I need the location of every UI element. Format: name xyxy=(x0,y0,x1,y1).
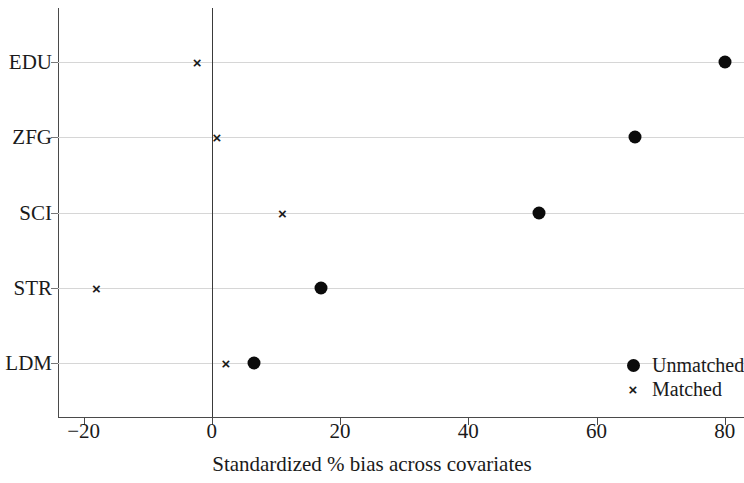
x-axis-tick-label: −20 xyxy=(67,419,100,444)
legend-key xyxy=(620,359,646,372)
data-point-unmatched-edu xyxy=(718,56,731,69)
x-axis-tick-label: 40 xyxy=(458,419,479,444)
x-axis-tick-label: 0 xyxy=(207,419,218,444)
standardized-bias-chart: ××××× EDUZFGSCISTRLDM −20020406080 Stand… xyxy=(0,0,744,483)
y-axis-tick xyxy=(51,62,58,63)
data-point-matched-ldm: × xyxy=(218,356,233,371)
cross-marker-icon: × xyxy=(620,382,646,397)
chart-legend: Unmatched×Matched xyxy=(620,353,744,401)
data-point-unmatched-ldm xyxy=(247,357,260,370)
y-axis-tick xyxy=(51,288,58,289)
x-axis-line xyxy=(58,417,744,418)
data-point-matched-str: × xyxy=(89,280,104,295)
x-axis-tick-label: 80 xyxy=(714,419,735,444)
y-axis-label-edu: EDU xyxy=(9,50,52,75)
filled-circle-marker-icon xyxy=(627,359,640,372)
legend-label: Matched xyxy=(646,378,722,401)
y-axis-label-sci: SCI xyxy=(19,200,52,225)
zero-line xyxy=(212,8,213,418)
gridline xyxy=(58,62,744,63)
data-point-matched-zfg: × xyxy=(209,130,224,145)
y-axis-label-str: STR xyxy=(13,275,52,300)
data-point-unmatched-str xyxy=(314,281,327,294)
gridline xyxy=(58,213,744,214)
data-point-matched-edu: × xyxy=(190,55,205,70)
data-point-unmatched-zfg xyxy=(629,131,642,144)
gridline xyxy=(58,288,744,289)
legend-item-unmatched: Unmatched xyxy=(620,353,744,377)
y-axis-tick xyxy=(51,137,58,138)
x-axis-tick-label: 20 xyxy=(330,419,351,444)
y-axis-tick xyxy=(51,213,58,214)
y-axis-label-zfg: ZFG xyxy=(12,125,52,150)
data-point-matched-sci: × xyxy=(275,205,290,220)
legend-label: Unmatched xyxy=(646,354,744,377)
y-axis-label-ldm: LDM xyxy=(5,351,52,376)
x-axis-tick-label: 60 xyxy=(586,419,607,444)
legend-item-matched: ×Matched xyxy=(620,377,744,401)
x-axis-title: Standardized % bias across covariates xyxy=(0,452,744,477)
data-point-unmatched-sci xyxy=(532,206,545,219)
